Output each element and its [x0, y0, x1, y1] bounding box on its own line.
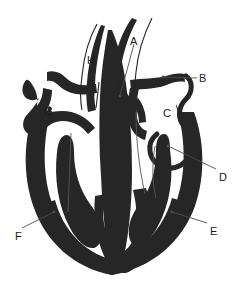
leader-endpoint-d: [167, 145, 170, 148]
leader-endpoint-b: [162, 76, 165, 79]
leader-endpoint-a: [119, 95, 122, 98]
label-g: G: [44, 106, 53, 117]
label-b: B: [199, 73, 206, 84]
label-f: F: [15, 231, 22, 242]
vessel-h-inner-outline: [96, 82, 99, 108]
label-d: D: [219, 172, 227, 183]
leader-endpoint-f: [53, 211, 56, 214]
heart-anatomy-illustration: [0, 0, 244, 293]
label-a: A: [130, 36, 137, 47]
label-h: H: [87, 55, 95, 66]
right-atrium-roof: [130, 74, 185, 90]
label-e: E: [210, 226, 217, 237]
label-c: C: [163, 108, 171, 119]
heart-diagram-figure: ABCDEFGH: [0, 0, 244, 293]
leader-endpoint-e: [171, 211, 174, 214]
heart-body-group: [22, 18, 216, 275]
